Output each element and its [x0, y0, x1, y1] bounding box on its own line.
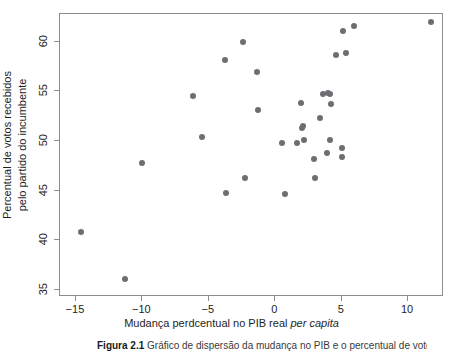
data-point: [324, 150, 330, 156]
y-axis-tick-label: 45: [38, 184, 49, 234]
data-point: [300, 123, 306, 129]
x-axis-title-italic: per capita: [291, 317, 339, 329]
x-axis-tick-label: 10: [387, 303, 427, 315]
data-point: [328, 101, 334, 107]
data-point: [199, 134, 205, 140]
figure-caption-label: Figura 2.1: [97, 340, 144, 351]
y-axis-title-line2: pelo partido do incumbente: [15, 15, 30, 275]
x-axis-tick: [341, 296, 342, 301]
y-axis-tick-label: 40: [38, 233, 49, 283]
data-point: [327, 137, 333, 143]
x-axis-tick-label: 0: [254, 303, 294, 315]
x-axis-tick-label: −15: [55, 303, 95, 315]
x-axis-tick-label: −5: [188, 303, 228, 315]
data-point: [279, 140, 285, 146]
data-point: [223, 190, 229, 196]
data-point: [222, 57, 228, 63]
y-axis-tick-label: 55: [38, 84, 49, 134]
x-axis-tick: [208, 296, 209, 301]
y-axis-title: Percentual de votos recebidos pelo parti…: [0, 15, 30, 275]
data-point: [139, 160, 145, 166]
data-points-layer: [60, 14, 442, 295]
y-axis-tick-label: 60: [38, 35, 49, 85]
plot-area: [59, 13, 443, 296]
data-point: [242, 175, 248, 181]
data-point: [78, 229, 84, 235]
data-point: [312, 175, 318, 181]
data-point: [333, 52, 339, 58]
data-point: [428, 19, 434, 25]
data-point: [294, 140, 300, 146]
data-point: [282, 191, 288, 197]
data-point: [351, 23, 357, 29]
data-point: [190, 93, 196, 99]
figure-caption: Figura 2.1 Gráfico de dispersão da mudan…: [97, 340, 427, 351]
data-point: [301, 137, 307, 143]
x-axis-tick-label: 5: [321, 303, 361, 315]
figure-caption-text: Gráfico de dispersão da mudança no PIB e…: [147, 340, 427, 351]
x-axis-tick: [274, 296, 275, 301]
data-point: [255, 107, 261, 113]
x-axis-tick-label: −10: [121, 303, 161, 315]
data-point: [298, 100, 304, 106]
data-point: [311, 156, 317, 162]
data-point: [339, 145, 345, 151]
data-point: [254, 69, 260, 75]
data-point: [340, 28, 346, 34]
y-axis-title-line1: Percentual de votos recebidos: [0, 15, 15, 275]
y-axis-tick-label: 50: [38, 134, 49, 184]
data-point: [343, 50, 349, 56]
x-axis-tick: [141, 296, 142, 301]
x-axis-title-text: Mudança perdcentual no PIB real: [124, 317, 290, 329]
data-point: [122, 276, 128, 282]
x-axis-tick: [407, 296, 408, 301]
data-point: [240, 39, 246, 45]
x-axis-title: Mudança perdcentual no PIB real per capi…: [0, 317, 463, 329]
data-point: [317, 115, 323, 121]
data-point: [327, 91, 333, 97]
x-axis-tick: [75, 296, 76, 301]
data-point: [339, 154, 345, 160]
